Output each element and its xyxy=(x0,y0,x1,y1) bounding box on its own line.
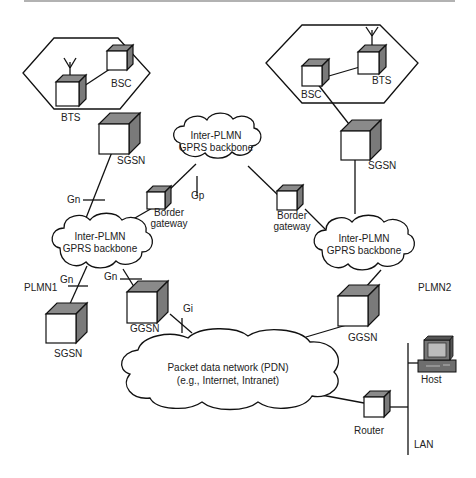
border-gateway-right-line1: Border xyxy=(277,210,308,221)
left-bsc-label: BSC xyxy=(111,78,132,89)
plmn2-label: PLMN2 xyxy=(418,282,452,293)
right-cloud-line2: GPRS backbone xyxy=(327,245,402,256)
interface-gp: Gp xyxy=(191,190,205,201)
left-cloud-line2: GPRS backbone xyxy=(63,243,138,254)
lan-label: LAN xyxy=(414,439,433,450)
center-cloud-line1: Inter-PLMN xyxy=(190,130,241,141)
ggsn-right-label: GGSN xyxy=(348,332,377,343)
cube-right-bts xyxy=(358,45,386,74)
cube-right-bsc xyxy=(302,59,329,86)
left-bts-label: BTS xyxy=(61,112,81,123)
right-bts-label: BTS xyxy=(372,75,392,86)
sgsn-bottom-left-label: SGSN xyxy=(54,348,82,359)
cube-router xyxy=(364,391,390,417)
interface-gn-left-sgsn: Gn xyxy=(60,274,73,285)
router-label: Router xyxy=(354,425,385,436)
sgsn-top-right-label: SGSN xyxy=(368,160,396,171)
cube-left-bsc xyxy=(107,45,133,70)
interface-gi: Gi xyxy=(183,303,193,314)
host-label: Host xyxy=(421,374,442,385)
plmn1-label: PLMN1 xyxy=(24,282,58,293)
cube-sgsn-top-left xyxy=(99,113,140,154)
border-gateway-left-line1: Border xyxy=(154,207,185,218)
right-cloud-line1: Inter-PLMN xyxy=(338,233,389,244)
cube-border-gateway-right xyxy=(277,185,303,210)
cube-sgsn-top-right xyxy=(341,120,381,160)
cube-left-bts xyxy=(56,75,86,106)
cube-ggsn-right xyxy=(338,285,379,326)
sgsn-top-left-label: SGSN xyxy=(117,155,145,166)
pdn-line1: Packet data network (PDN) xyxy=(167,362,288,373)
gprs-architecture-diagram: BSC BTS SGSN BTS BSC SGSN Inter-PLMN GPR… xyxy=(0,0,476,478)
cell-right-hexagon xyxy=(266,25,418,103)
border-gateway-left-line2: gateway xyxy=(150,218,187,229)
pdn-line2: (e.g., Internet, Intranet) xyxy=(177,375,279,386)
center-cloud-line2: GPRS backbone xyxy=(179,142,254,153)
host-computer-icon xyxy=(418,336,456,372)
left-cloud-line1: Inter-PLMN xyxy=(74,231,125,242)
interface-gn-top: Gn xyxy=(67,194,80,205)
border-gateway-right-line2: gateway xyxy=(273,221,310,232)
right-bsc-label: BSC xyxy=(301,89,322,100)
interface-gn-left-ggsn: Gn xyxy=(104,271,117,282)
cube-ggsn-left xyxy=(127,281,168,323)
cube-sgsn-bottom-left xyxy=(46,303,87,343)
cube-border-gateway-left xyxy=(147,186,171,209)
ggsn-left-label: GGSN xyxy=(130,323,159,334)
